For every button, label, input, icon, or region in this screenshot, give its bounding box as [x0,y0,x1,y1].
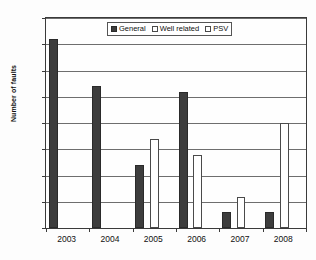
bar-general-2006 [179,92,188,229]
y-axis-title: Number of faults [10,48,17,140]
bar-general-2004 [92,86,101,228]
x-tick-mark [89,228,90,232]
bar-well-related-2007 [237,197,246,229]
x-tick-mark [219,228,220,232]
legend-swatch-icon [205,26,211,32]
legend-label: PSV [213,25,228,33]
x-tick-mark [176,228,177,232]
x-tick-label-2008: 2008 [263,234,303,244]
legend-item-psv: PSV [205,25,228,33]
legend-label: General [119,25,146,33]
chart-legend: GeneralWell relatedPSV [107,22,232,36]
legend-label: Well related [160,25,199,33]
bar-general-2003 [49,39,58,228]
bar-general-2005 [135,165,144,228]
bars-layer [46,18,306,228]
legend-swatch-icon [152,26,158,32]
legend-item-general: General [111,25,146,33]
x-tick-mark [133,228,134,232]
x-tick-label-2007: 2007 [220,234,260,244]
legend-item-well-related: Well related [152,25,199,33]
x-tick-label-2003: 2003 [47,234,87,244]
bar-well-related-2008 [280,123,289,228]
x-tick-mark [263,228,264,232]
plot-area: 0510152025303540 [45,17,307,229]
x-tick-label-2005: 2005 [133,234,173,244]
x-tick-mark [306,228,307,232]
bar-chart: Number of faults 0510152025303540 200320… [0,0,316,260]
bar-well-related-2006 [193,155,202,229]
bar-general-2007 [222,212,231,228]
legend-swatch-icon [111,26,117,32]
x-tick-label-2004: 2004 [90,234,130,244]
x-tick-mark [46,228,47,232]
x-tick-label-2006: 2006 [177,234,217,244]
bar-general-2008 [265,212,274,228]
bar-well-related-2005 [150,139,159,228]
